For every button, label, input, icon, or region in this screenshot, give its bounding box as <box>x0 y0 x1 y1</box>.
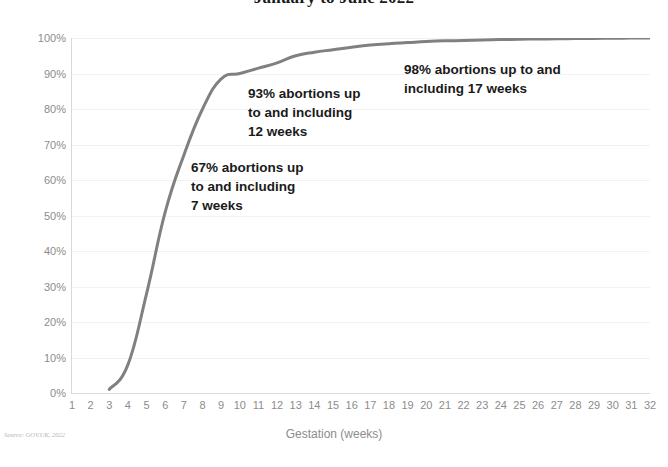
y-tick-label: 90% <box>6 68 66 80</box>
y-tick-label: 30% <box>6 281 66 293</box>
x-tick-label: 1 <box>69 399 75 411</box>
x-tick-label: 26 <box>532 399 544 411</box>
x-tick-label: 24 <box>495 399 507 411</box>
x-tick-label: 18 <box>383 399 395 411</box>
y-tick-label: 60% <box>6 174 66 186</box>
x-tick-label: 2 <box>88 399 94 411</box>
source-note: Source: GOV.UK, 2022 <box>4 431 65 438</box>
x-tick-label: 5 <box>144 399 150 411</box>
x-tick-label: 23 <box>476 399 488 411</box>
x-tick-label: 19 <box>401 399 413 411</box>
x-tick-label: 31 <box>625 399 637 411</box>
x-tick-label: 16 <box>346 399 358 411</box>
x-tick-label: 27 <box>551 399 563 411</box>
y-tick-label: 70% <box>6 139 66 151</box>
data-line-layer <box>72 38 650 393</box>
x-tick-label: 25 <box>513 399 525 411</box>
y-tick-label: 50% <box>6 210 66 222</box>
chart-title: January to June 2022 <box>0 0 668 8</box>
x-tick-label: 20 <box>420 399 432 411</box>
x-tick-label: 9 <box>218 399 224 411</box>
x-tick-label: 13 <box>290 399 302 411</box>
x-tick-label: 21 <box>439 399 451 411</box>
x-tick-label: 14 <box>308 399 320 411</box>
x-tick-label: 3 <box>106 399 112 411</box>
x-axis-line <box>71 393 650 394</box>
y-tick-label: 10% <box>6 352 66 364</box>
x-tick-label: 11 <box>253 399 264 411</box>
y-tick-label: 80% <box>6 103 66 115</box>
annotation-67-percent: 67% abortions up to and including 7 week… <box>191 158 304 215</box>
x-tick-label: 15 <box>327 399 339 411</box>
x-tick-label: 10 <box>234 399 246 411</box>
y-tick-label: 0% <box>6 387 66 399</box>
cumulative-percentage-line <box>72 38 650 393</box>
chart-container: January to June 2022 0%10%20%30%40%50%60… <box>0 0 668 467</box>
x-axis-title: Gestation (weeks) <box>0 427 668 441</box>
y-tick-label: 20% <box>6 316 66 328</box>
x-tick-label: 29 <box>588 399 600 411</box>
y-axis: 0%10%20%30%40%50%60%70%80%90%100% <box>0 0 66 467</box>
y-tick-label: 40% <box>6 245 66 257</box>
x-tick-label: 17 <box>364 399 376 411</box>
x-tick-label: 8 <box>199 399 205 411</box>
x-tick-label: 32 <box>644 399 656 411</box>
x-tick-label: 28 <box>569 399 581 411</box>
x-tick-label: 6 <box>162 399 168 411</box>
x-tick-label: 12 <box>271 399 283 411</box>
x-tick-label: 4 <box>125 399 131 411</box>
x-tick-label: 30 <box>607 399 619 411</box>
x-tick-label: 22 <box>457 399 469 411</box>
annotation-98-percent: 98% abortions up to and including 17 wee… <box>404 60 561 98</box>
annotation-93-percent: 93% abortions up to and including 12 wee… <box>248 84 361 141</box>
x-tick-label: 7 <box>181 399 187 411</box>
x-axis: 1234567891011121314151617181920212223242… <box>0 399 668 417</box>
y-tick-label: 100% <box>6 32 66 44</box>
